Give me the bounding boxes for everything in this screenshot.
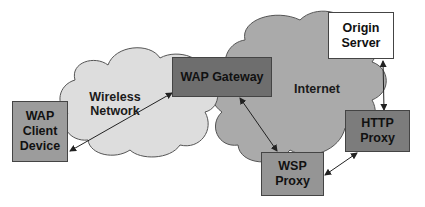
edge-http-origin [383, 61, 384, 110]
wsp-line1: WSP [278, 159, 306, 174]
internet-label: Internet [282, 82, 352, 96]
wsp-proxy-node: WSP Proxy [261, 152, 324, 196]
wap-client-device-node: WAP Client Device [12, 101, 68, 162]
http-proxy-node: HTTP Proxy [345, 110, 410, 152]
http-line1: HTTP [361, 116, 394, 131]
wireless-label-line2: Network [80, 104, 150, 118]
client-line3: Device [20, 139, 60, 154]
wireless-label-line1: Wireless [80, 90, 150, 104]
origin-server-node: Origin Server [328, 12, 394, 59]
origin-line1: Origin [343, 21, 380, 36]
client-line2: Client [23, 124, 58, 139]
client-line1: WAP [26, 109, 54, 124]
http-line2: Proxy [360, 131, 395, 146]
wsp-line2: Proxy [275, 174, 310, 189]
wireless-network-label: Wireless Network [80, 90, 150, 118]
wap-gateway-node: WAP Gateway [172, 57, 272, 97]
origin-line2: Server [342, 36, 381, 51]
edge-wsp-http [325, 153, 357, 175]
